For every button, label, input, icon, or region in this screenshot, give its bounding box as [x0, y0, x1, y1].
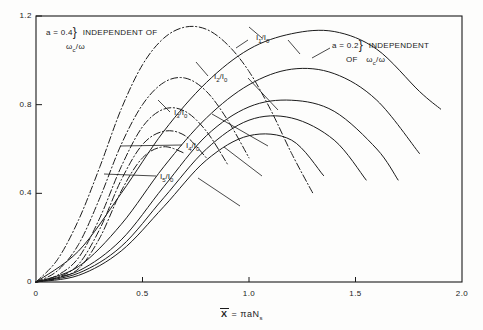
curve-label-l4: I4/I0 [186, 141, 199, 152]
curve-label-l2: I2/I0 [214, 72, 227, 83]
annotation-right-text: INDEPENDENT [369, 41, 430, 50]
y-tick-label: 0.8 [2, 100, 32, 109]
label-leader-lines [104, 27, 330, 206]
curve-I5-over-I0-a02 [36, 134, 324, 282]
x-tick-label: 1.5 [341, 289, 371, 298]
annotation-left-a: a = 0.4 [46, 28, 73, 37]
curve-I4-over-I0-a04 [36, 131, 206, 282]
annotation-right-brace: } [359, 38, 363, 52]
annotation-right-of: OF [346, 55, 358, 64]
annotation-left-text: INDEPENDENT OF [83, 28, 158, 37]
figure-canvas: 00.40.81.2 00.51.01.52.0 I1/I0I2/I0I3/I0… [0, 0, 483, 330]
curve-label-denom-sub: 0 [184, 113, 187, 119]
curve-label-l1: I1/I0 [256, 33, 269, 44]
curve-label-l5: I5/I0 [160, 172, 173, 183]
x-tick-label: 0.5 [128, 289, 158, 298]
leader-line-right-l5 [198, 178, 240, 206]
curve-I5-over-I0-a04 [36, 147, 185, 282]
leader-line-right-l3 [212, 114, 268, 146]
leader-line-left-l3 [158, 100, 170, 112]
y-tick-label: 1.2 [2, 11, 32, 20]
leader-line-left-l4 [120, 145, 182, 146]
curve-label-l3: I3/I0 [174, 108, 187, 119]
leader-line-right-l4 [224, 147, 262, 176]
x-axis-title-rest: = πaN [229, 309, 260, 319]
annotation-left-omega-rest: /ω [76, 42, 85, 51]
annotation-right-omega-rest: /ω [376, 55, 385, 64]
curve-label-denom-sub: 0 [266, 38, 269, 44]
x-tick-label: 1.0 [234, 289, 264, 298]
annotation-left-brace: } [73, 25, 77, 39]
x-axis-title-sub: s [260, 315, 264, 321]
y-tick-label: 0 [2, 277, 32, 286]
annotation-right: a = 0.2} INDEPENDENT OF ωc/ω [332, 37, 429, 66]
curve-label-denom-sub: 0 [196, 146, 199, 152]
leader-line-left-l2 [196, 62, 208, 76]
x-axis-title-var: X [220, 308, 229, 319]
curve-label-denom-sub: 0 [170, 177, 173, 183]
curve-I2-over-I0-a02 [36, 68, 419, 282]
annotation-right-a: a = 0.2 [332, 41, 359, 50]
annotation-left: a = 0.4} INDEPENDENT OF ωc/ω [46, 24, 157, 53]
x-tick-label: 2.0 [447, 289, 477, 298]
curve-I3-over-I0-a04 [36, 108, 228, 282]
leader-line-left-l1 [236, 40, 248, 48]
x-axis-title: X = πaNs [0, 309, 483, 321]
y-tick-label: 0.4 [2, 188, 32, 197]
annotation-leader-right [312, 48, 330, 58]
x-tick-label: 0 [21, 289, 51, 298]
leader-line-right-l1 [288, 40, 300, 54]
curve-label-denom-sub: 0 [224, 77, 227, 83]
